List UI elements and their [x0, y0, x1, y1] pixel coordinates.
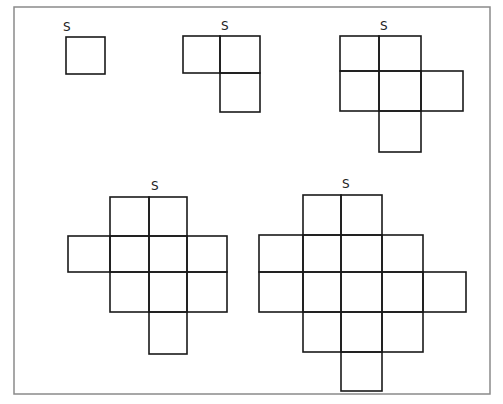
grid-cell — [382, 312, 423, 352]
grid-cell — [110, 272, 149, 312]
grid-cell — [341, 312, 382, 352]
grid-cell — [423, 272, 466, 312]
outer-frame — [14, 7, 490, 394]
shape-3: S — [340, 19, 463, 152]
shape-5: S — [259, 177, 466, 391]
grid-cell — [187, 272, 227, 312]
grid-cell — [110, 197, 149, 236]
grid-cell — [259, 272, 303, 312]
start-label: S — [151, 179, 159, 193]
grid-cell — [149, 272, 187, 312]
grid-cell — [220, 36, 260, 73]
start-label: S — [380, 19, 388, 33]
grid-cell — [340, 71, 379, 111]
grid-cell — [110, 236, 149, 272]
grid-cell — [379, 36, 421, 71]
grid-cell — [382, 272, 423, 312]
shape-1: S — [63, 20, 105, 74]
grid-cell — [341, 272, 382, 312]
shape-2: S — [183, 19, 260, 112]
grid-cell — [382, 235, 423, 272]
grid-cell — [187, 236, 227, 272]
grid-cell — [149, 312, 187, 354]
grid-cell — [379, 111, 421, 152]
shapes-group: SSSSS — [63, 19, 466, 391]
start-label: S — [342, 177, 350, 191]
grid-cell — [341, 235, 382, 272]
grid-cell — [220, 73, 260, 112]
grid-cell — [340, 36, 379, 71]
grid-cell — [421, 71, 463, 111]
diagram-canvas: SSSSS — [0, 0, 503, 404]
grid-cell — [68, 236, 110, 272]
grid-cell — [303, 272, 341, 312]
grid-cell — [379, 71, 421, 111]
grid-cell — [303, 195, 341, 235]
grid-cell — [183, 36, 220, 73]
grid-cell — [149, 236, 187, 272]
shape-4: S — [68, 179, 227, 354]
grid-cell — [303, 312, 341, 352]
start-label: S — [63, 20, 71, 34]
grid-cell — [341, 195, 382, 235]
grid-cell — [149, 197, 187, 236]
grid-cell — [66, 37, 105, 74]
grid-cell — [303, 235, 341, 272]
grid-cell — [341, 352, 382, 391]
grid-cell — [259, 235, 303, 272]
start-label: S — [221, 19, 229, 33]
